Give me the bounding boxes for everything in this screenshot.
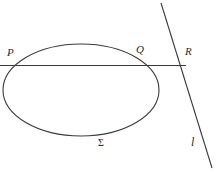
ellipse-sigma: [3, 44, 159, 136]
point-label-p: P: [7, 47, 14, 58]
figure-canvas: [0, 0, 219, 173]
line-label-l: l: [191, 137, 194, 148]
conic-label-sigma: Σ: [98, 137, 104, 148]
point-label-q: Q: [136, 44, 144, 55]
transversal-line-l: [161, 3, 212, 168]
point-label-r: R: [185, 46, 192, 57]
geometry-figure: P Q R Σ l: [0, 0, 219, 173]
